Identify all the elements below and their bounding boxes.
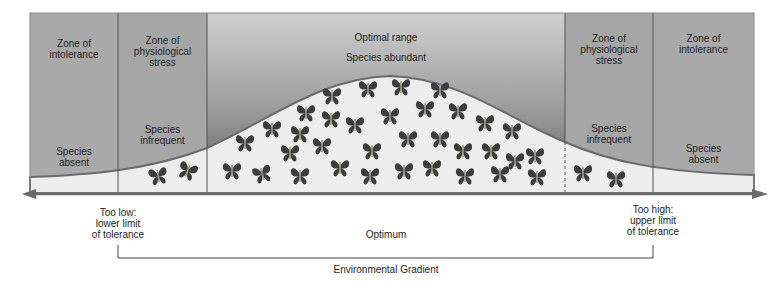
- zone5-title: Zone of intolerance: [653, 33, 754, 55]
- zone3-title: Optimal range: [207, 32, 565, 43]
- zone2-title: Zone of physiological stress: [118, 35, 207, 68]
- gradient-bracket: [118, 245, 653, 258]
- zone4-status: Species infrequent: [565, 123, 653, 145]
- environmental-gradient-label: Environmental Gradient: [286, 264, 486, 275]
- upper-limit-label: Too high: upper limit of tolerance: [608, 204, 698, 237]
- zone4-title: Zone of physiological stress: [565, 33, 653, 66]
- zone5-status: Species absent: [653, 143, 754, 165]
- optimum-label: Optimum: [336, 229, 436, 240]
- zone1-status: Species absent: [30, 146, 118, 168]
- zone3-status: Species abundant: [207, 52, 565, 63]
- zone2-status: Species infrequent: [118, 124, 207, 146]
- zone1-title: Zone of intolerance: [30, 38, 118, 60]
- lower-limit-label: Too low: lower limit of tolerance: [73, 207, 163, 240]
